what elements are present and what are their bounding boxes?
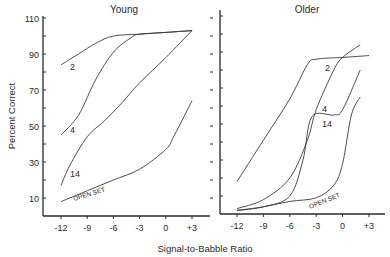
x-tick-label: -12	[230, 221, 243, 231]
curve-2	[61, 31, 192, 65]
chart-figure: 1030507090110 -12-9-6-30+3 Young 2 4 14 …	[0, 0, 390, 257]
curve-14	[237, 70, 360, 210]
y-tick-label: 90	[29, 50, 39, 60]
x-tick-label: -9	[259, 221, 267, 231]
older-panel: -12-9-6-30+3 Older 2 4 14 OPEN SET	[220, 4, 385, 231]
x-tick-label: 0	[163, 223, 168, 233]
young-label-open-set: OPEN SET	[72, 186, 106, 202]
y-tick-label: 30	[29, 158, 39, 168]
older-curves	[237, 45, 369, 211]
curve-14	[61, 31, 192, 186]
x-tick-label: -9	[83, 223, 91, 233]
older-x-ticks: -12-9-6-30+3	[230, 214, 374, 231]
young-title: Young	[110, 4, 138, 15]
older-title: Older	[295, 4, 320, 15]
y-axis-label: Percent Correct	[6, 82, 17, 149]
young-label-4: 4	[70, 125, 75, 135]
x-tick-label: +3	[364, 221, 374, 231]
older-label-4: 4	[322, 104, 327, 114]
x-tick-label: -6	[286, 221, 294, 231]
x-tick-label: -12	[54, 223, 67, 233]
young-y-ticks: 1030507090110	[25, 14, 213, 204]
y-tick-label: 110	[25, 14, 39, 24]
x-tick-label: +3	[187, 223, 197, 233]
older-label-2: 2	[325, 63, 330, 73]
older-label-14: 14	[322, 119, 332, 129]
curve-open-set	[61, 101, 192, 202]
x-tick-label: -3	[136, 223, 144, 233]
young-curves	[61, 31, 192, 202]
curve-open-set	[237, 97, 360, 210]
curve-4	[237, 45, 360, 209]
curve-4	[61, 31, 192, 135]
young-label-2: 2	[70, 62, 75, 72]
young-label-14: 14	[70, 169, 80, 179]
x-tick-label: -6	[109, 223, 117, 233]
young-panel: 1030507090110 -12-9-6-30+3 Young 2 4 14 …	[25, 4, 213, 233]
x-tick-label: 0	[340, 221, 345, 231]
y-tick-label: 50	[29, 122, 39, 132]
young-x-ticks: -12-9-6-30+3	[54, 216, 197, 233]
x-axis-label: Signal-to-Babble Ratio	[157, 243, 252, 254]
x-tick-label: -3	[312, 221, 320, 231]
y-tick-label: 70	[29, 86, 39, 96]
curve-2	[237, 56, 369, 182]
y-tick-label: 10	[29, 194, 39, 204]
